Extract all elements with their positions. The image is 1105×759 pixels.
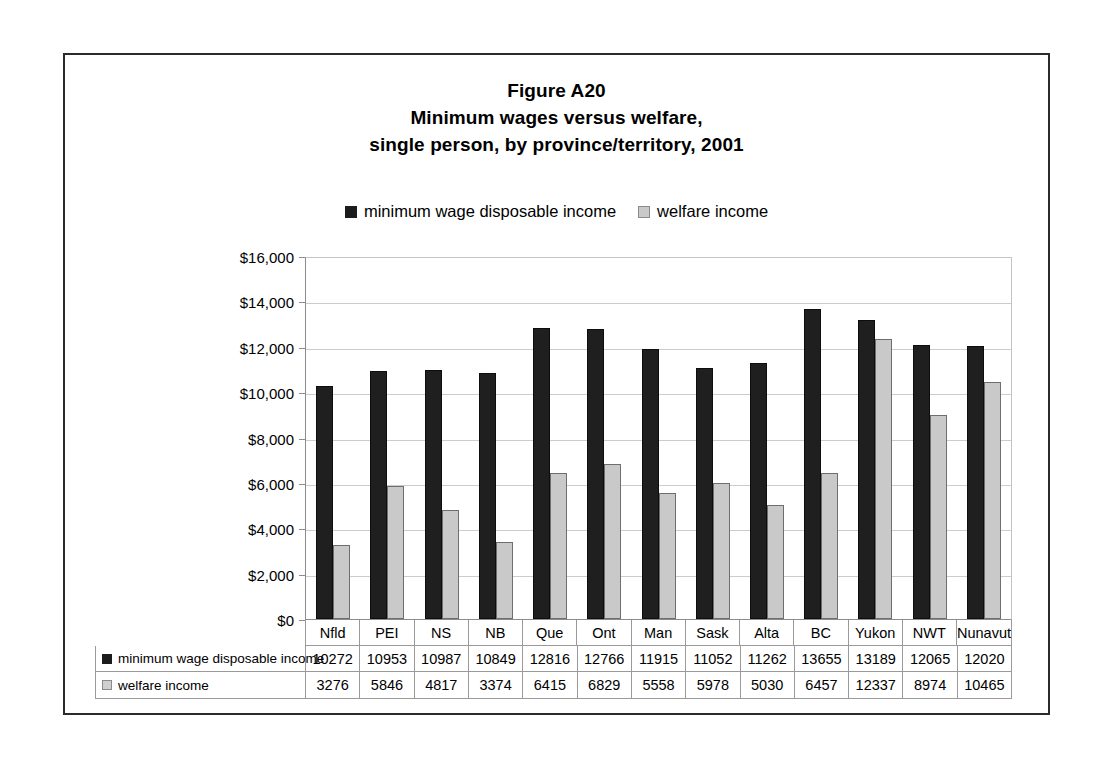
category-axis-labels: NfldPEINSNBQueOntManSaskAltaBCYukonNWTNu… bbox=[305, 620, 1012, 646]
table-value-cell: 3374 bbox=[469, 672, 523, 698]
y-axis-tick-label: $14,000 bbox=[240, 294, 294, 311]
y-axis-tick bbox=[299, 575, 305, 576]
y-axis-tick-label: $6,000 bbox=[248, 475, 294, 492]
table-value-cell: 5846 bbox=[360, 672, 414, 698]
category-label: Alta bbox=[740, 620, 794, 645]
y-axis-tick bbox=[299, 302, 305, 303]
table-row-label: minimum wage disposable income bbox=[118, 651, 324, 666]
table-value-cell: 5978 bbox=[686, 672, 740, 698]
bar-welfare bbox=[496, 542, 513, 619]
category-label: BC bbox=[794, 620, 848, 645]
bar-welfare bbox=[930, 415, 947, 619]
bar-welfare bbox=[550, 473, 567, 619]
table-value-cell: 12020 bbox=[958, 646, 1011, 671]
bar-welfare bbox=[604, 464, 621, 619]
bar-group bbox=[523, 258, 577, 619]
figure-title: Figure A20 Minimum wages versus welfare,… bbox=[65, 77, 1048, 158]
table-value-cell: 12766 bbox=[578, 646, 632, 671]
bar-minimum-wage bbox=[750, 363, 767, 619]
y-axis-tick bbox=[299, 529, 305, 530]
table-value-cell: 6415 bbox=[523, 672, 577, 698]
bar-minimum-wage bbox=[858, 320, 875, 619]
plot-wrapper: $16,000$14,000$12,000$10,000$8,000$6,000… bbox=[305, 257, 1012, 620]
bar-minimum-wage bbox=[642, 349, 659, 619]
category-label: NB bbox=[469, 620, 523, 645]
bar-minimum-wage bbox=[533, 328, 550, 619]
table-swatch-light bbox=[102, 680, 112, 690]
table-value-cell: 5030 bbox=[741, 672, 795, 698]
table-value-cell: 4817 bbox=[415, 672, 469, 698]
y-axis-tick bbox=[299, 393, 305, 394]
category-label: Nfld bbox=[306, 620, 360, 645]
bar-group bbox=[414, 258, 468, 619]
bar-group bbox=[957, 258, 1011, 619]
legend-entry: minimum wage disposable income bbox=[345, 202, 616, 221]
table-value-cell: 10953 bbox=[360, 646, 414, 671]
bar-group bbox=[469, 258, 523, 619]
bar-minimum-wage bbox=[967, 346, 984, 619]
bar-minimum-wage bbox=[370, 371, 387, 619]
category-label: Man bbox=[632, 620, 686, 645]
category-label: NWT bbox=[903, 620, 957, 645]
y-axis-tick-label: $10,000 bbox=[240, 385, 294, 402]
bar-welfare bbox=[387, 486, 404, 619]
y-axis-tick-label: $2,000 bbox=[248, 566, 294, 583]
table-row-label-cell: minimum wage disposable income bbox=[96, 646, 306, 671]
bar-welfare bbox=[875, 339, 892, 619]
table-value-cell: 3276 bbox=[306, 672, 360, 698]
bars-layer bbox=[306, 258, 1011, 619]
table-row: welfare income32765846481733746415682955… bbox=[96, 672, 1011, 698]
category-label: Nunavut bbox=[957, 620, 1011, 645]
bar-minimum-wage bbox=[479, 373, 496, 619]
figure-frame: Figure A20 Minimum wages versus welfare,… bbox=[63, 53, 1050, 715]
table-row-label: welfare income bbox=[118, 678, 209, 693]
bar-welfare bbox=[442, 510, 459, 619]
legend-entry: welfare income bbox=[638, 202, 768, 221]
table-row-label-cell: welfare income bbox=[96, 672, 306, 698]
bar-group bbox=[360, 258, 414, 619]
table-value-cell: 6457 bbox=[795, 672, 849, 698]
bar-minimum-wage bbox=[425, 370, 442, 619]
category-label: Sask bbox=[686, 620, 740, 645]
table-value-cell: 11262 bbox=[741, 646, 795, 671]
table-value-cell: 11915 bbox=[632, 646, 686, 671]
category-label: Yukon bbox=[849, 620, 903, 645]
title-line-3: single person, by province/territory, 20… bbox=[65, 131, 1048, 158]
bar-minimum-wage bbox=[913, 345, 930, 619]
table-value-cell: 13655 bbox=[795, 646, 849, 671]
bar-group bbox=[740, 258, 794, 619]
bar-welfare bbox=[767, 505, 784, 619]
y-axis-tick bbox=[299, 484, 305, 485]
legend-swatch-light bbox=[638, 206, 650, 218]
plot-area bbox=[305, 257, 1012, 620]
table-value-cell: 10465 bbox=[958, 672, 1011, 698]
table-value-cell: 12816 bbox=[523, 646, 577, 671]
y-axis-tick-label: $4,000 bbox=[248, 521, 294, 538]
table-row: minimum wage disposable income1027210953… bbox=[96, 646, 1011, 672]
table-value-cell: 6829 bbox=[578, 672, 632, 698]
bar-group bbox=[577, 258, 631, 619]
table-value-cell: 10987 bbox=[415, 646, 469, 671]
y-axis-tick-label: $12,000 bbox=[240, 339, 294, 356]
bar-group bbox=[306, 258, 360, 619]
y-axis-tick bbox=[299, 257, 305, 258]
table-swatch-dark bbox=[102, 654, 112, 664]
bar-welfare bbox=[821, 473, 838, 619]
bar-group bbox=[794, 258, 848, 619]
bar-welfare bbox=[659, 493, 676, 619]
legend-label: minimum wage disposable income bbox=[364, 202, 616, 221]
table-value-cell: 8974 bbox=[903, 672, 957, 698]
table-value-cell: 11052 bbox=[686, 646, 740, 671]
table-value-cell: 12065 bbox=[903, 646, 957, 671]
legend-swatch-dark bbox=[345, 206, 357, 218]
table-value-cell: 10272 bbox=[306, 646, 360, 671]
bar-welfare bbox=[984, 382, 1001, 619]
y-axis-tick-label: $8,000 bbox=[248, 430, 294, 447]
table-value-cell: 10849 bbox=[469, 646, 523, 671]
title-line-1: Figure A20 bbox=[65, 77, 1048, 104]
bar-minimum-wage bbox=[587, 329, 604, 619]
y-axis-tick bbox=[299, 348, 305, 349]
bar-welfare bbox=[333, 545, 350, 619]
bar-minimum-wage bbox=[316, 386, 333, 619]
bar-group bbox=[903, 258, 957, 619]
